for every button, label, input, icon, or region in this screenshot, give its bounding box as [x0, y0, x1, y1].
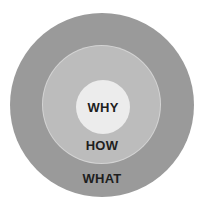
how-label: HOW	[62, 138, 142, 153]
what-label: WHAT	[62, 171, 142, 186]
why-label: WHY	[63, 100, 143, 115]
